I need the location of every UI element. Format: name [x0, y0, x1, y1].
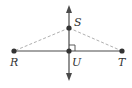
point-u	[66, 48, 71, 53]
arrow-down-icon	[66, 73, 72, 81]
point-r	[11, 48, 16, 53]
label-s: S	[74, 16, 82, 29]
dashed-segment-sr	[14, 28, 69, 51]
dashed-segment-st	[69, 28, 122, 51]
geometry-diagram: S R U T	[0, 0, 132, 88]
point-t	[119, 48, 124, 53]
point-s	[66, 25, 71, 30]
arrow-up-icon	[66, 5, 72, 13]
label-t: T	[118, 56, 127, 69]
label-u: U	[72, 56, 82, 69]
label-r: R	[9, 56, 18, 69]
